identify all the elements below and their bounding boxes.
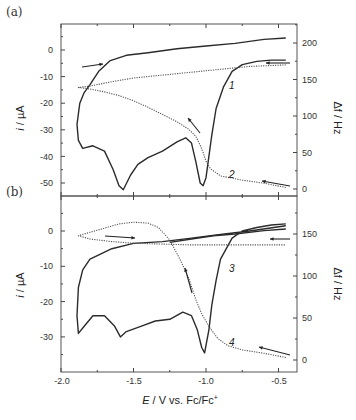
curves — [77, 38, 286, 358]
panel-a-frame — [61, 24, 297, 196]
curve-1 — [77, 38, 286, 190]
panel-a-right-tick-labels: 200 150 100 50 0 — [302, 38, 317, 194]
tick-label: 50 — [302, 313, 312, 323]
tick-label: -1.0 — [198, 376, 214, 386]
tick-label: 200 — [302, 38, 317, 48]
direction-arrows — [82, 61, 290, 355]
panel-b-frame — [61, 196, 297, 372]
panel-b-label: (b) — [6, 185, 23, 199]
curve-label-3: 3 — [229, 263, 235, 274]
y-axis-title-right-b: Δf / Hz — [332, 267, 344, 300]
y-axis-title-left-b: i / µA — [14, 272, 26, 298]
curve-2 — [78, 65, 285, 188]
curve-label-2: 2 — [228, 169, 235, 180]
tick-label: 0 — [48, 45, 53, 55]
tick-label: -20 — [40, 297, 53, 307]
arrow-up-icon — [184, 268, 192, 293]
tick-label: 100 — [302, 111, 317, 121]
curve-label-4: 4 — [229, 337, 235, 348]
curve-4 — [78, 222, 285, 357]
tick-label: 0 — [302, 184, 307, 194]
tick-label: -2.0 — [54, 376, 70, 386]
tick-label: 50 — [302, 148, 312, 158]
arrow-left-icon — [266, 61, 290, 65]
x-tick-labels: -2.0 -1.5 -1.0 -0.5 — [54, 376, 287, 386]
panel-b-right-tick-labels: 150 100 50 0 — [302, 229, 317, 365]
tick-label: -50 — [40, 178, 53, 188]
tick-label: 0 — [302, 355, 307, 365]
tick-label: 0 — [48, 226, 53, 236]
tick-label: -10 — [40, 72, 53, 82]
y-axis-title-left-a: i / µA — [14, 105, 26, 131]
panel-a-label: (a) — [6, 5, 23, 19]
tick-label: -40 — [40, 152, 53, 162]
tick-label: -30 — [40, 332, 53, 342]
x-axis-title: E / V vs. Fc/Fc+ — [142, 394, 218, 406]
cv-eqcm-chart: (a) (b) 0 -10 -20 -30 -40 -50 200 150 10… — [0, 0, 356, 420]
y-axis-title-right-a: Δf / Hz — [332, 101, 344, 134]
arrow-right-icon — [105, 236, 135, 240]
tick-label: -10 — [40, 261, 53, 271]
tick-label: -30 — [40, 125, 53, 135]
panel-a-left-tick-labels: 0 -10 -20 -30 -40 -50 — [40, 45, 53, 188]
curve-label-1: 1 — [229, 80, 235, 91]
axis-ticks — [61, 24, 297, 372]
tick-label: 100 — [302, 271, 317, 281]
tick-label: -20 — [40, 98, 53, 108]
curve-3-freq — [170, 229, 286, 242]
arrow-right-icon — [82, 63, 103, 67]
tick-label: -1.5 — [126, 376, 142, 386]
curve-3 — [77, 224, 286, 353]
tick-label: 150 — [302, 75, 317, 85]
panel-b-left-tick-labels: 0 -10 -20 -30 — [40, 226, 53, 342]
tick-label: 150 — [302, 229, 317, 239]
arrow-left-icon — [270, 237, 290, 241]
tick-label: -0.5 — [271, 376, 287, 386]
